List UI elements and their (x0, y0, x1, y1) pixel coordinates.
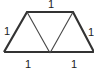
label-bottom-left: 1 (25, 58, 31, 70)
inner-diagonal-left (27, 12, 50, 53)
label-top: 1 (48, 0, 54, 10)
label-left: 1 (4, 25, 10, 37)
inner-diagonal-right (50, 12, 73, 53)
trapezoid-diagram: 1 1 1 1 1 (0, 0, 94, 74)
label-bottom-right: 1 (71, 58, 77, 70)
outer-edge (4, 12, 94, 52)
label-right: 1 (88, 26, 94, 38)
